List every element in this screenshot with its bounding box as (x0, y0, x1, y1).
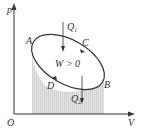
y-axis-label: p (6, 4, 12, 15)
point-b-label: B (104, 79, 110, 90)
point-a-label: A (25, 35, 33, 46)
point-c-label: C (82, 37, 89, 48)
work-label: W > 0 (55, 58, 80, 69)
heat-out-subscript: 2 (78, 99, 81, 105)
heat-in-label: Q1 (67, 21, 77, 33)
heat-in-arrowhead-icon (61, 46, 65, 52)
origin-label: O (7, 117, 14, 128)
heat-in-subscript: 1 (74, 27, 77, 33)
x-axis-label: V (128, 117, 136, 128)
direction-arrow-c-icon (80, 49, 85, 53)
pv-diagram: p V O A C B D Q1 Q2 W > 0 (0, 0, 146, 138)
point-d-label: D (46, 80, 55, 91)
x-axis-arrow-icon (128, 112, 135, 117)
y-axis-arrow-icon (12, 3, 17, 10)
